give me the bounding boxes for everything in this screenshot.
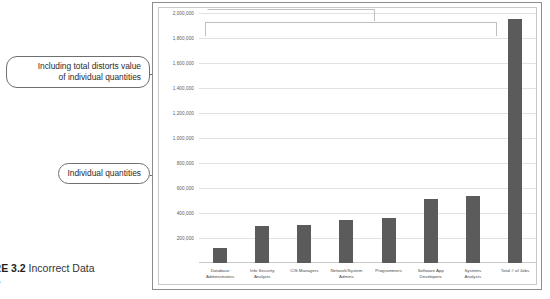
y-axis-tick-label: 1,800,000 bbox=[173, 36, 194, 41]
plot-area: 2,000,0001,800,0001,600,0001,400,0001,20… bbox=[199, 13, 536, 263]
figure-caption-line2: rce bbox=[0, 276, 1, 288]
y-axis-tick-label: 400,000 bbox=[177, 211, 194, 216]
figure-caption: URE 3.2 Incorrect Data rce bbox=[0, 262, 136, 289]
bar[interactable] bbox=[339, 220, 353, 263]
bar-group[interactable]: Database Administrators bbox=[199, 13, 241, 263]
y-axis-tick-label: 1,200,000 bbox=[173, 111, 194, 116]
bar-group[interactable]: Info Security Analysts bbox=[241, 13, 283, 263]
bar[interactable] bbox=[508, 19, 522, 263]
bar-group[interactable]: Total # of Jobs bbox=[494, 13, 536, 263]
chart-frame: 2,000,0001,800,0001,600,0001,400,0001,20… bbox=[152, 2, 542, 290]
x-axis-category-label: Total # of Jobs bbox=[490, 268, 540, 274]
callout-individual-quantities: Individual quantities bbox=[58, 163, 150, 184]
bar-group[interactable]: Programmers bbox=[368, 13, 410, 263]
callout-total-distorts: Including total distorts value of indivi… bbox=[6, 56, 150, 88]
bar-group[interactable]: CIS Managers bbox=[283, 13, 325, 263]
bar-group[interactable]: Systems Analysts bbox=[452, 13, 494, 263]
y-axis-tick-label: 1,600,000 bbox=[173, 61, 194, 66]
y-axis-tick-label: 2,000,000 bbox=[173, 11, 194, 16]
figure-caption-label: URE 3.2 bbox=[0, 262, 26, 274]
y-axis-tick-label: 800,000 bbox=[177, 161, 194, 166]
figure-caption-text: Incorrect Data bbox=[26, 262, 95, 274]
bar-group[interactable]: Network/System Admins bbox=[325, 13, 367, 263]
bar[interactable] bbox=[382, 218, 396, 263]
y-axis-tick-label: 200,000 bbox=[177, 236, 194, 241]
y-axis-tick-label: 1,400,000 bbox=[173, 86, 194, 91]
bar-group[interactable]: Software App Developers bbox=[410, 13, 452, 263]
bar[interactable] bbox=[213, 248, 227, 263]
bar[interactable] bbox=[466, 196, 480, 264]
y-axis-tick-label: 1,000,000 bbox=[173, 136, 194, 141]
bar-series: Database AdministratorsInfo Security Ana… bbox=[199, 13, 536, 263]
bar[interactable] bbox=[424, 199, 438, 263]
bar[interactable] bbox=[255, 226, 269, 264]
bar[interactable] bbox=[297, 225, 311, 263]
y-axis-tick-label: 600,000 bbox=[177, 186, 194, 191]
